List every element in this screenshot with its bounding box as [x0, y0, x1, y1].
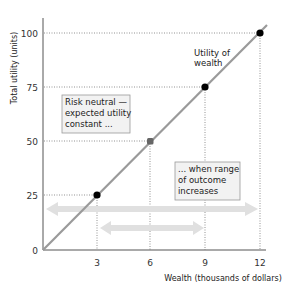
- y-tick: 50: [27, 137, 39, 147]
- y-axis-label: Total utility (units): [10, 32, 19, 105]
- point-12-100: [256, 29, 263, 36]
- svg-text:of outcome: of outcome: [178, 175, 226, 185]
- y-tick: 75: [27, 83, 38, 93]
- x-tick-labels: 3 6 9 12: [94, 258, 266, 268]
- point-6-50: [147, 138, 154, 145]
- point-9-75: [201, 83, 208, 90]
- y-tick: 0: [32, 246, 38, 256]
- y-tick: 25: [27, 191, 38, 201]
- utility-chart: 100 75 50 25 0 3 6 9 12 Wealth (thousand…: [0, 0, 306, 287]
- x-axis-label: Wealth (thousands of dollars): [164, 274, 282, 283]
- x-tick: 12: [254, 258, 265, 268]
- range-increase-annotation: ... when range of outcome increases: [175, 162, 240, 200]
- svg-text:expected utility: expected utility: [65, 108, 131, 118]
- x-tick: 6: [147, 258, 153, 268]
- risk-neutral-annotation: Risk neutral — expected utility constant…: [62, 95, 131, 133]
- x-tick: 3: [94, 258, 100, 268]
- svg-text:constant ...: constant ...: [65, 119, 113, 129]
- x-tick: 9: [202, 258, 208, 268]
- range-arrows: [46, 202, 258, 235]
- narrow-range-arrow: [100, 221, 204, 235]
- y-tick: 100: [21, 29, 38, 39]
- svg-text:Utility of: Utility of: [194, 48, 231, 58]
- svg-text:wealth: wealth: [194, 58, 222, 68]
- svg-text:... when range: ... when range: [178, 164, 239, 174]
- point-3-25: [93, 191, 100, 198]
- y-tick-labels: 100 75 50 25 0: [21, 29, 38, 256]
- curve-label: Utility of wealth: [194, 48, 231, 68]
- utility-of-wealth-line: [43, 25, 267, 250]
- svg-text:increases: increases: [178, 186, 219, 196]
- svg-text:Risk neutral —: Risk neutral —: [65, 97, 127, 107]
